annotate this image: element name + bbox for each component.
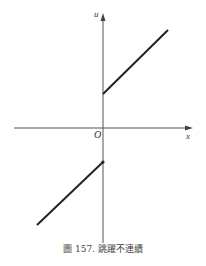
figure-caption: 圖 157. 跳躍不連續 — [0, 242, 206, 255]
x-axis-arrow-icon — [185, 126, 193, 131]
left-branch-line — [37, 162, 103, 225]
origin-label: O — [94, 129, 101, 140]
right-branch-line — [103, 30, 168, 94]
plot-canvas — [0, 0, 206, 266]
u-axis-label: u — [94, 9, 99, 19]
x-axis-label: x — [186, 131, 190, 141]
jump-discontinuity-figure: u x O 圖 157. 跳躍不連續 — [0, 0, 206, 266]
endpoint-dot — [101, 160, 104, 163]
u-axis-arrow-icon — [101, 13, 106, 21]
